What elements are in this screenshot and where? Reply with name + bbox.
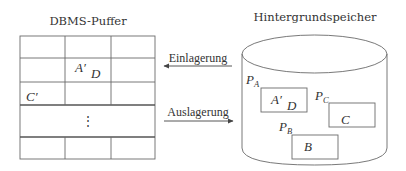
transfer-arrows: Einlagerung Auslagerung bbox=[164, 51, 233, 121]
page-c-box bbox=[329, 103, 375, 127]
page-a-content-d: D bbox=[286, 98, 297, 113]
page-c-label: PC bbox=[314, 88, 329, 105]
buffer-title: DBMS-Puffer bbox=[49, 14, 127, 28]
einlagerung-label: Einlagerung bbox=[169, 51, 228, 65]
page-a-label: PA bbox=[245, 72, 260, 89]
storage-title: Hintergrundspeicher bbox=[254, 10, 377, 24]
buffer-ellipsis: ⋮ bbox=[82, 114, 94, 128]
page-c-content: C bbox=[341, 112, 350, 127]
page-a-box bbox=[261, 88, 307, 112]
page-a-content-a-prime: A′ bbox=[270, 92, 282, 107]
buffer-storage-diagram: DBMS-Puffer A′ D C′ ⋮ Einlagerung Auslag… bbox=[0, 0, 406, 171]
page-b-label: PB bbox=[278, 119, 292, 136]
page-c: PC C bbox=[314, 88, 375, 127]
dbms-buffer: DBMS-Puffer A′ D C′ ⋮ bbox=[20, 14, 155, 159]
buffer-frame bbox=[20, 36, 155, 159]
page-b-content: B bbox=[304, 139, 312, 154]
buffer-cell-a-prime: A′ bbox=[74, 60, 86, 75]
cylinder-top-icon bbox=[242, 35, 387, 73]
buffer-cell-c-prime: C′ bbox=[26, 89, 38, 104]
background-storage: Hintergrundspeicher PA A′ D PC C PB B bbox=[242, 10, 387, 165]
page-b-box bbox=[292, 135, 338, 159]
buffer-cell-d: D bbox=[90, 66, 101, 81]
auslagerung-label: Auslagerung bbox=[167, 105, 228, 119]
page-a: PA A′ D bbox=[245, 72, 307, 113]
